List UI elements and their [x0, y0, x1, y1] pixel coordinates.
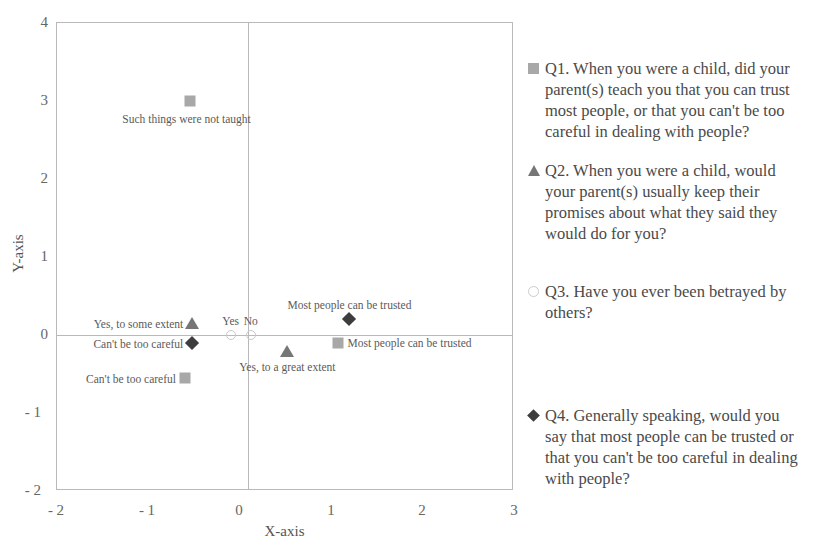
diamond-marker-icon — [185, 336, 199, 350]
legend-label-q2: Q2. When you were a child, would your pa… — [545, 161, 777, 243]
legend-label-q4: Q4. Generally speaking, would you say th… — [545, 406, 798, 488]
triangle-marker-icon — [528, 165, 540, 176]
point-label: Can't be too careful — [86, 373, 176, 385]
square-marker-icon — [332, 337, 343, 348]
triangle-marker-icon — [280, 345, 294, 357]
point-label: Such things were not taught — [122, 113, 250, 125]
plot-area: Such things were not taughtCan't be too … — [56, 22, 513, 490]
legend-entry-q1[interactable]: Q1. When you were a child, did your pare… — [528, 58, 803, 142]
diamond-marker-icon — [342, 312, 356, 326]
ytick-3: 3 — [8, 92, 48, 109]
gridline-x-zero — [248, 23, 249, 489]
ytick-0: 0 — [8, 326, 48, 343]
x-axis-title: X-axis — [56, 523, 513, 540]
circle-open-marker-icon — [226, 330, 236, 340]
point-label: Yes, to a great extent — [239, 361, 335, 373]
ytick-2: 2 — [8, 170, 48, 187]
circle-open-marker-icon — [246, 330, 256, 340]
point-label: No — [244, 315, 258, 327]
circle-open-marker-icon — [528, 286, 539, 297]
triangle-marker-icon — [185, 317, 199, 329]
legend-entry-q2[interactable]: Q2. When you were a child, would your pa… — [528, 160, 803, 244]
square-marker-icon — [179, 372, 190, 383]
xtick-3: 3 — [494, 502, 534, 519]
point-label: Most people can be trusted — [348, 337, 472, 349]
square-marker-icon — [184, 96, 195, 107]
ytick-neg2: - 2 — [1, 482, 41, 499]
legend-entry-q3[interactable]: Q3. Have you ever been betrayed by other… — [528, 281, 803, 323]
xtick-0: 0 — [219, 502, 259, 519]
point-label: Yes, to some extent — [94, 318, 184, 330]
xtick-1: 1 — [311, 502, 351, 519]
diamond-marker-icon — [527, 409, 540, 422]
xtick-neg2: - 2 — [36, 502, 76, 519]
square-marker-icon — [528, 63, 539, 74]
chart-legend: Q1. When you were a child, did your pare… — [528, 58, 803, 495]
legend-label-q3: Q3. Have you ever been betrayed by other… — [545, 282, 786, 322]
xtick-neg1: - 1 — [127, 502, 167, 519]
xtick-2: 2 — [402, 502, 442, 519]
y-axis-title: Y-axis — [10, 214, 27, 294]
scatter-chart-figure: Such things were not taughtCan't be too … — [0, 0, 814, 553]
ytick-4: 4 — [8, 14, 48, 31]
point-label: Can't be too careful — [93, 338, 183, 350]
legend-entry-q4[interactable]: Q4. Generally speaking, would you say th… — [528, 405, 803, 489]
legend-label-q1: Q1. When you were a child, did your pare… — [545, 59, 790, 141]
ytick-neg1: - 1 — [1, 404, 41, 421]
point-label: Most people can be trusted — [288, 299, 412, 311]
point-label: Yes — [222, 315, 239, 327]
